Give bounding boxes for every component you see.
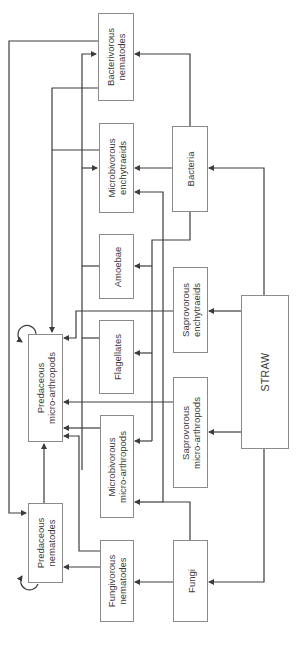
node-label: Bacterivorous nematodes xyxy=(105,28,127,86)
node-microbivorous-micro-arthropods: Microbivorous micro-arthropods xyxy=(100,415,134,518)
node-label: Saprovorous enchytraeids xyxy=(180,283,202,337)
node-label: STRAW xyxy=(260,352,271,391)
edge-bacteria-to-bacterivorous-nematodes xyxy=(135,54,190,126)
node-label: Saprovorous micro-arthropods xyxy=(180,397,202,469)
node-fungivorous-nematodes: Fungivorous nematodes xyxy=(100,540,134,622)
node-label: Amoebae xyxy=(111,246,122,287)
node-label: Fungivorous nematodes xyxy=(106,555,128,607)
node-bacteria: Bacteria xyxy=(172,126,208,212)
node-microbivorous-enchytraeids: Microbivorous enchytraeids xyxy=(99,123,134,213)
node-flagellates: Flagellates xyxy=(99,320,134,394)
node-saprovorous-micro-arthropods: Saprovorous micro-arthropods xyxy=(173,377,208,488)
edge-straw-to-fungi xyxy=(209,449,264,582)
node-fungi: Fungi xyxy=(173,540,208,622)
node-label: Fungi xyxy=(185,569,196,593)
node-label: Microbivorous micro-arthropods xyxy=(106,431,128,503)
node-saprovorous-enchytraeids: Saprovorous enchytraeids xyxy=(173,267,208,353)
node-bacterivorous-nematodes: Bacterivorous nematodes xyxy=(98,13,134,101)
food-web-diagram: Bacterivorous nematodes Microbivorous en… xyxy=(0,0,301,647)
node-straw: STRAW xyxy=(241,295,289,449)
node-label: Predaceous nematodes xyxy=(35,518,57,569)
node-label: Flagellates xyxy=(111,334,122,380)
node-amoebae: Amoebae xyxy=(99,234,134,299)
edge-bacterivorous-nematodes-to-predaceous-micro-arthropods xyxy=(52,88,98,332)
node-predaceous-nematodes: Predaceous nematodes xyxy=(28,503,63,583)
edge-bacterivorous-nematodes-to-predaceous-nematodes xyxy=(9,41,98,513)
node-predaceous-micro-arthropods: Predaceous micro-arthropods xyxy=(28,334,63,442)
edge-straw-to-bacteria xyxy=(209,168,264,295)
node-label: Microbivorous enchytraeids xyxy=(106,138,128,197)
node-label: Predaceous micro-arthropods xyxy=(35,352,57,424)
edge-collector-to-bacterivorous-nematodes xyxy=(82,54,96,470)
node-label: Bacteria xyxy=(185,152,196,187)
